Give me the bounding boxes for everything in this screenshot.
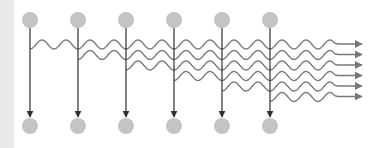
top-node-4 — [166, 12, 182, 28]
wave-arrow-5 — [222, 82, 362, 91]
wave-arrow-1 — [30, 40, 362, 49]
nodes — [22, 12, 278, 134]
bottom-node-1 — [22, 118, 38, 134]
wave-arrow-6 — [270, 93, 362, 102]
bottom-node-5 — [214, 118, 230, 134]
wave-arrow-4 — [174, 72, 362, 81]
wave-arrow-3 — [126, 61, 362, 70]
emission-diagram — [0, 0, 384, 148]
top-node-5 — [214, 12, 230, 28]
top-node-2 — [70, 12, 86, 28]
wave-arrow-2 — [78, 51, 362, 60]
bottom-node-6 — [262, 118, 278, 134]
vertical-arrows — [30, 20, 270, 117]
bottom-node-3 — [118, 118, 134, 134]
bottom-node-4 — [166, 118, 182, 134]
top-node-1 — [22, 12, 38, 28]
top-node-3 — [118, 12, 134, 28]
wave-signals — [30, 40, 362, 102]
top-node-6 — [262, 12, 278, 28]
bottom-node-2 — [70, 118, 86, 134]
